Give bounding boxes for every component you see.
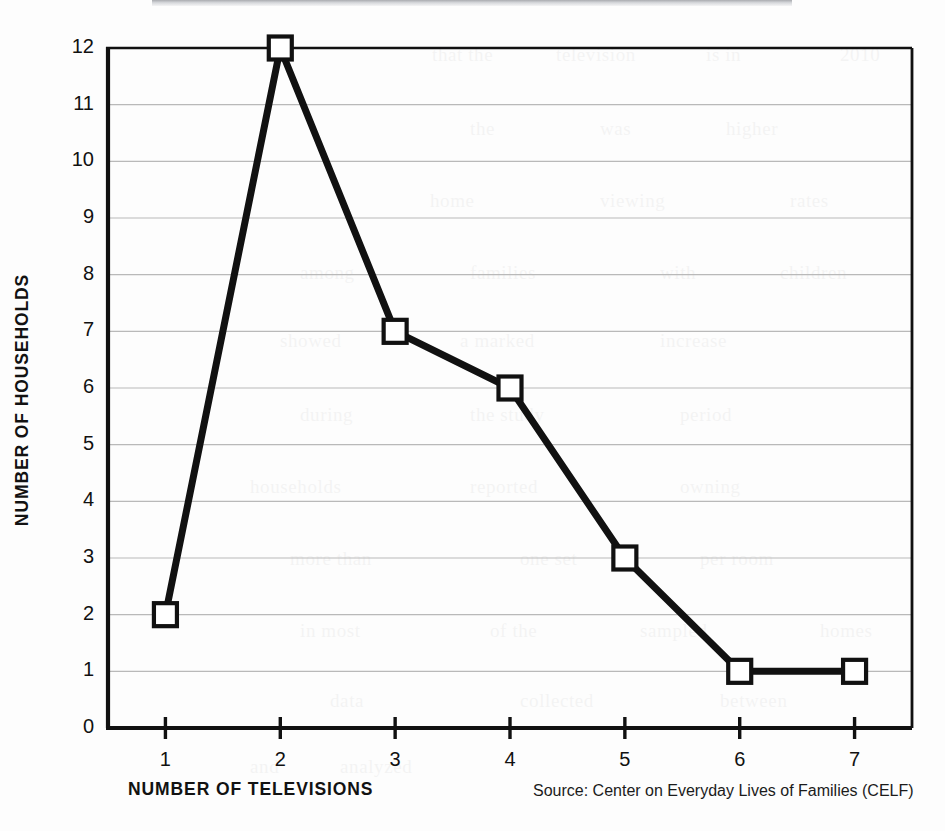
data-point-marker — [499, 377, 522, 400]
x-axis-tick-label: 3 — [378, 748, 412, 771]
data-line — [165, 48, 854, 671]
y-axis-tick-label: 3 — [60, 545, 94, 568]
x-axis-tick-label: 7 — [838, 748, 872, 771]
y-axis-tick-label: 2 — [60, 602, 94, 625]
x-axis-tick-label: 6 — [723, 748, 757, 771]
source-note: Source: Center on Everyday Lives of Fami… — [533, 782, 914, 800]
y-axis-tick-label: 7 — [60, 318, 94, 341]
chart-figure: that thetelevisionis in2010thewashigherh… — [0, 0, 945, 831]
y-axis-tick-label: 5 — [60, 432, 94, 455]
y-axis-title: NUMBER OF HOUSEHOLDS — [12, 274, 33, 526]
y-axis-tick-label: 10 — [60, 148, 94, 171]
y-axis-tick-label: 1 — [60, 658, 94, 681]
y-axis-tick-label: 0 — [60, 715, 94, 738]
data-point-marker — [154, 603, 177, 626]
y-axis-tick-label: 4 — [60, 488, 94, 511]
data-point-marker — [613, 547, 636, 570]
x-axis-tick-label: 5 — [608, 748, 642, 771]
line-chart — [0, 0, 945, 831]
series-polyline — [165, 48, 854, 671]
data-point-marker — [843, 660, 866, 683]
x-axis-tick-label: 4 — [493, 748, 527, 771]
x-axis-tick-label: 2 — [263, 748, 297, 771]
y-axis-tick-label: 9 — [60, 205, 94, 228]
data-point-marker — [728, 660, 751, 683]
y-axis-tick-label: 12 — [60, 35, 94, 58]
data-point-marker — [269, 37, 292, 60]
y-axis-tick-label: 6 — [60, 375, 94, 398]
x-axis-tick-label: 1 — [148, 748, 182, 771]
x-axis-title: NUMBER OF TELEVISIONS — [128, 779, 373, 800]
data-point-marker — [384, 320, 407, 343]
y-axis-tick-label: 8 — [60, 262, 94, 285]
y-axis-tick-label: 11 — [60, 92, 94, 115]
